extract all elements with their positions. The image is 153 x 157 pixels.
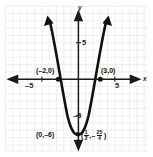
- y-tick-label-5: 5: [82, 39, 86, 47]
- point-dot-x-intercept-left: [56, 77, 61, 82]
- x-tick-label-5: 5: [115, 82, 119, 90]
- label-x-intercept-left: (–2,0): [36, 67, 54, 74]
- label-y-intercept: (0,–6): [36, 131, 54, 138]
- point-dot-vertex: [76, 132, 80, 136]
- vertex-x-denominator: 2: [84, 135, 89, 141]
- vertex-y-fraction: 25 4: [96, 130, 104, 142]
- parabola-arrow-left: [44, 16, 54, 27]
- label-vertex: ( 1 2 , – 25 4 ): [81, 130, 106, 142]
- point-dot-x-intercept-right: [98, 77, 103, 82]
- x-tick-label-neg5: –5: [25, 82, 33, 90]
- vertex-close-paren: ): [104, 132, 106, 139]
- y-axis-label: y: [78, 5, 82, 12]
- graph-figure: y x –5 5 5 –5 (–2,0) (3,0) (0,–6) ( 1 2 …: [0, 0, 153, 157]
- vertex-y-sign: –: [91, 132, 95, 139]
- vertex-y-denominator: 4: [97, 135, 102, 141]
- y-tick-label-neg5: –5: [73, 112, 81, 120]
- x-axis-label: x: [143, 76, 147, 83]
- parabola-curve: [0, 0, 153, 157]
- parabola-arrow-right: [102, 16, 112, 27]
- vertex-x-fraction: 1 2: [84, 130, 89, 142]
- label-x-intercept-right: (3,0): [101, 67, 115, 74]
